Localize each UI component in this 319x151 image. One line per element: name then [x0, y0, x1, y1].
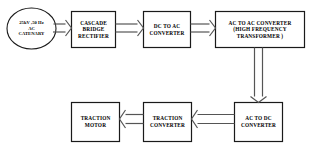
block-diagram-graphics: [0, 0, 319, 151]
cascade-bridge-rectifier-shape[interactable]: [72, 12, 116, 48]
connector-rectifier-to-dc-ac: [116, 20, 144, 36]
connector-traction-converter-to-motor: [120, 110, 144, 128]
ac-to-dc-converter-shape[interactable]: [235, 103, 283, 142]
traction-converter-shape[interactable]: [144, 103, 192, 142]
dc-to-ac-converter-shape[interactable]: [144, 12, 191, 48]
ac-to-ac-converter-shape[interactable]: [216, 12, 305, 48]
ac-catenary-source-shape[interactable]: [7, 8, 56, 49]
connector-ac-dc-to-traction-converter: [192, 110, 235, 128]
traction-motor-shape[interactable]: [72, 103, 120, 142]
connector-ac-ac-to-ac-dc: [251, 48, 267, 103]
block-diagram-canvas: 25kV ,50 Hz AC CATENARY CASCADE BRIDGE R…: [0, 0, 319, 151]
connector-dc-ac-to-ac-ac: [191, 20, 216, 36]
